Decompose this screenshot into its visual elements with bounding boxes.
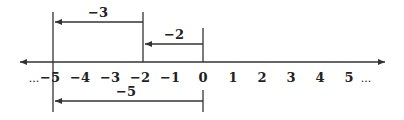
tick-label: −4: [70, 70, 90, 85]
tick-label: 3: [286, 70, 295, 85]
ellipsis-right: ...: [361, 72, 372, 85]
span-label-minus-5: −5: [116, 84, 136, 99]
tick-label: 0: [198, 70, 207, 85]
tick-label: −1: [160, 70, 180, 85]
tick-label: −2: [130, 70, 150, 85]
number-line-diagram: −3 −2 −5 ... −5 −4 −3 −2 −1 0 1 2 3 4 5 …: [0, 0, 404, 120]
tick-label: 1: [228, 70, 237, 85]
ellipsis-left: ...: [29, 72, 40, 85]
tick-label: −3: [100, 70, 120, 85]
tick-label: −5: [40, 70, 60, 85]
tick-label: 2: [257, 70, 266, 85]
span-label-minus-3: −3: [88, 5, 108, 20]
tick-label: 4: [315, 70, 324, 85]
span-label-minus-2: −2: [164, 27, 184, 42]
tick-label: 5: [344, 70, 353, 85]
